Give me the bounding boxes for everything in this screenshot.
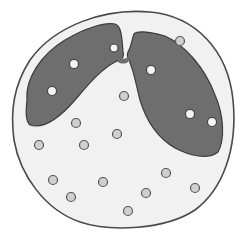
nucleus-granule xyxy=(110,44,118,52)
nucleus-granule xyxy=(147,66,156,75)
cytoplasm-granule xyxy=(162,169,171,178)
cytoplasm-granule xyxy=(176,37,185,46)
cytoplasm-granule xyxy=(80,141,89,150)
nucleus-granule xyxy=(48,87,57,96)
cytoplasm-granule xyxy=(35,141,44,150)
cell-diagram xyxy=(0,0,246,240)
cytoplasm-granule xyxy=(49,176,58,185)
cell-illustration xyxy=(0,0,246,240)
cytoplasm-granule xyxy=(142,189,151,198)
cytoplasm-granule xyxy=(72,119,81,128)
nucleus-granule xyxy=(186,110,195,119)
nucleus-granule xyxy=(70,60,79,69)
nucleus-granule xyxy=(208,118,217,127)
cytoplasm-granule xyxy=(99,178,108,187)
cytoplasm-granule xyxy=(191,184,200,193)
cytoplasm-granule xyxy=(113,130,122,139)
cytoplasm-granule xyxy=(67,193,76,202)
cytoplasm-granule xyxy=(124,207,133,216)
cytoplasm-granule xyxy=(120,92,129,101)
